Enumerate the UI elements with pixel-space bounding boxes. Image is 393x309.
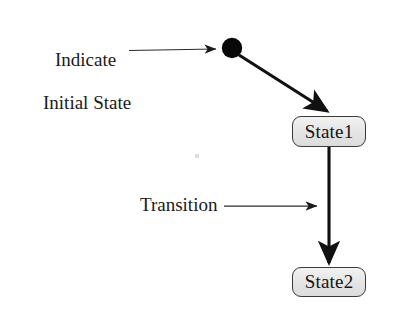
state-node-state1[interactable]: State1 (292, 116, 366, 147)
state-node-label: State2 (305, 271, 354, 293)
transition-callout-label: Transition (140, 194, 217, 215)
callout-line-2: Initial State (43, 92, 131, 113)
state-node-label: State1 (305, 120, 354, 142)
transition-initial-to-state1 (239, 55, 327, 111)
diagram-canvas: Indicate Initial State Transition State1… (0, 0, 393, 309)
callout-line-1: Indicate (55, 49, 116, 70)
callout-arrow-initial-state (129, 49, 216, 51)
state-node-state2[interactable]: State2 (292, 267, 366, 297)
scan-artifact-speck (195, 154, 199, 158)
initial-state-callout-label: Indicate Initial State (24, 28, 128, 134)
